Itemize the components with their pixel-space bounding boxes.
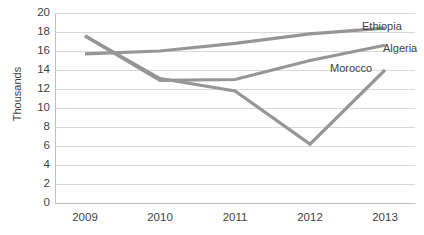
x-tick-label: 2013	[372, 211, 398, 223]
x-tick-label: 2011	[223, 211, 248, 223]
x-tick-label: 2012	[297, 211, 323, 223]
series-label-morocco: Morocco	[330, 62, 372, 74]
x-tick-label: 2010	[147, 211, 173, 223]
plot-area	[0, 0, 424, 235]
line-chart: Thousands 02468101214161820 200920102011…	[0, 0, 424, 235]
series-label-algeria: Algeria	[383, 42, 417, 54]
x-tick-label: 2009	[72, 211, 98, 223]
series-label-ethiopia: Ethiopia	[362, 20, 402, 32]
gridlines	[55, 13, 415, 203]
